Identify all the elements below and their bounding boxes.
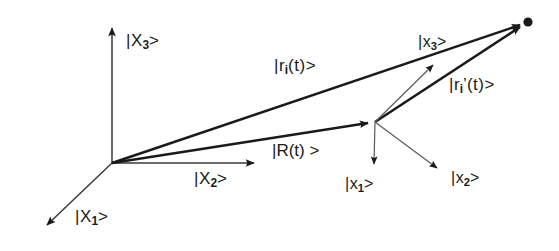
- ket-base: x: [423, 33, 431, 50]
- ket-base: X: [80, 207, 91, 226]
- ket-base: x: [350, 175, 358, 192]
- label-local-x3: |x3>: [418, 34, 447, 52]
- label-vector-ri-prime: |ri’(t)>: [449, 76, 495, 96]
- ket-base: r: [279, 56, 285, 75]
- ket-close: >: [149, 31, 159, 50]
- ket-close: >: [437, 33, 447, 50]
- ket-suffix: (t)>: [467, 75, 495, 94]
- ket-close: >: [470, 169, 480, 186]
- ket-base: r: [454, 75, 460, 94]
- axis-x1-line: [374, 122, 375, 164]
- ket-suffix: (t)>: [288, 56, 316, 75]
- label-global-x3: |X3>: [126, 32, 160, 52]
- label-local-x2: |x2>: [451, 170, 480, 188]
- vector-ri-prime-line: [375, 27, 520, 122]
- ket-base: X: [199, 169, 210, 188]
- ket-close: >: [364, 175, 374, 192]
- label-vector-R: |R(t) >: [272, 142, 319, 159]
- label-local-x1: |x1>: [345, 176, 374, 194]
- axis-x2-line: [375, 122, 437, 168]
- label-global-x2: |X2>: [194, 170, 228, 190]
- ket-base: x: [456, 169, 464, 186]
- label-global-x1: |X1>: [75, 208, 109, 228]
- axis-x3-line: [375, 65, 433, 122]
- ket-close: >: [98, 207, 108, 226]
- label-vector-ri: |ri(t)>: [274, 57, 316, 77]
- vector-diagram: |X3> |X2> |X1> |x3> |x2> |x1> |ri(t)> |r…: [0, 0, 559, 251]
- particle-point: [523, 17, 532, 26]
- vector-R-line: [112, 123, 368, 163]
- ket-base: X: [131, 31, 142, 50]
- ket-close: >: [217, 169, 227, 188]
